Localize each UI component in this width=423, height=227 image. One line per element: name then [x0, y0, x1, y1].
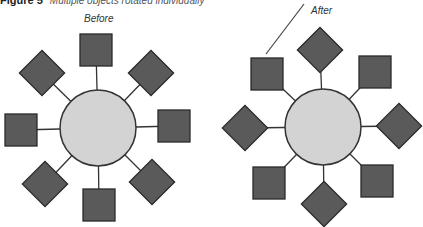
square-object [253, 167, 285, 199]
square-object [158, 110, 190, 142]
hub-circle [60, 90, 136, 166]
diamond-object [376, 103, 421, 148]
square-object [5, 114, 37, 146]
rotation-diagram [0, 0, 423, 227]
figure-canvas: Figure 5 Multiple objects rotated indivi… [0, 0, 423, 227]
square-object [361, 165, 393, 197]
before-panel [5, 34, 190, 221]
square-object [359, 56, 391, 88]
diamond-object [222, 105, 267, 150]
after-panel [222, 4, 421, 227]
hub-circle [285, 89, 361, 165]
square-object [80, 34, 112, 66]
diamond-object [297, 27, 342, 72]
callout-line [266, 4, 304, 54]
square-object [83, 189, 115, 221]
square-object [251, 58, 283, 90]
diamond-object [301, 181, 346, 226]
